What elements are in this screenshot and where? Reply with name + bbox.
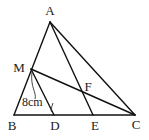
point-label-f: F <box>84 79 91 94</box>
point-label-d: D <box>50 118 59 133</box>
point-labels-group: AMBDECF <box>8 3 141 133</box>
segment-ae <box>50 22 93 115</box>
geometry-diagram: 8cm AMBDECF <box>0 0 149 140</box>
point-label-c: C <box>132 117 141 132</box>
point-label-m: M <box>13 60 25 75</box>
diagram-canvas: 8cm AMBDECF <box>0 0 149 140</box>
point-label-b: B <box>8 118 17 133</box>
segment-ac <box>50 22 135 115</box>
point-label-e: E <box>91 118 99 133</box>
segment-mc <box>31 69 135 115</box>
measurement-label-md: 8cm <box>22 95 43 109</box>
point-label-a: A <box>45 3 55 18</box>
